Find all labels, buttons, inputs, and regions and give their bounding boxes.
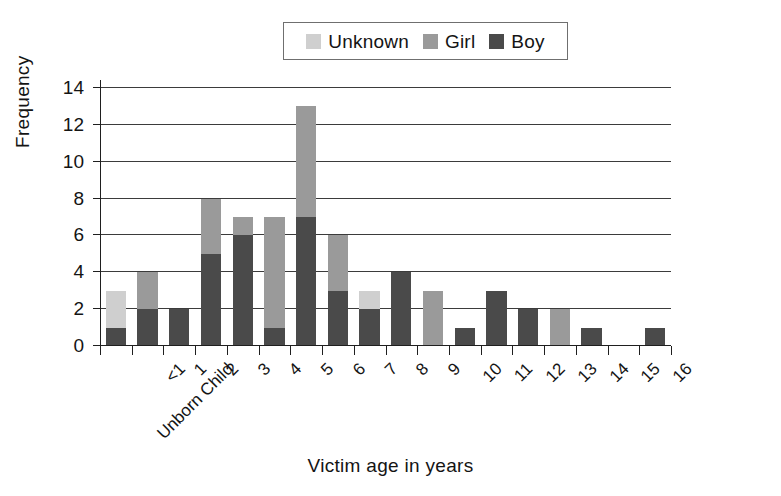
stacked-bar-chart: UnknownGirlBoy Frequency Victim age in y…	[0, 0, 781, 496]
legend-label: Boy	[511, 32, 544, 51]
y-axis-tick-label: 0	[44, 336, 84, 355]
y-axis-tick	[93, 161, 100, 162]
bar-segment-girl	[296, 106, 316, 217]
x-axis-tick-label: 15	[638, 360, 663, 385]
x-axis-tick	[290, 346, 291, 355]
x-axis-tick-label: <1	[162, 360, 188, 386]
y-axis-tick-label: 12	[44, 115, 84, 134]
x-axis-tick	[100, 346, 101, 355]
x-axis-tick-label: 13	[575, 360, 600, 385]
y-axis-tick-label: 10	[44, 152, 84, 171]
y-axis-tick-label: 6	[44, 225, 84, 244]
legend-item-girl[interactable]: Girl	[423, 32, 475, 51]
x-axis-tick	[544, 346, 545, 355]
bar-segment-boy	[201, 254, 221, 346]
bar-segment-unknown	[359, 291, 379, 309]
bar-segment-girl	[137, 272, 157, 309]
x-axis-tick	[259, 346, 260, 355]
x-axis-tick	[449, 346, 450, 355]
x-axis-tick-label: 8	[413, 360, 432, 379]
bar-segment-boy	[518, 309, 538, 346]
x-axis-tick-label: 6	[350, 360, 369, 379]
x-axis-tick	[576, 346, 577, 355]
bar-segment-boy	[233, 235, 253, 346]
x-axis-tick-label: 7	[381, 360, 400, 379]
bar-stack	[201, 199, 221, 346]
bar-segment-boy	[486, 291, 506, 346]
x-axis-tick-label: 16	[670, 360, 695, 385]
x-axis-tick-label: 5	[318, 360, 337, 379]
x-axis-tick	[386, 346, 387, 355]
bar-group[interactable]	[163, 88, 195, 346]
bar-group[interactable]	[227, 88, 259, 346]
bar-segment-boy	[645, 328, 665, 346]
x-axis-tick-label: 3	[255, 360, 274, 379]
bar-segment-girl	[264, 217, 284, 328]
x-axis-tick	[354, 346, 355, 355]
legend-label: Girl	[445, 32, 475, 51]
bar-stack	[296, 106, 316, 346]
bar-stack	[423, 291, 443, 346]
bar-stack	[518, 309, 538, 346]
legend-item-unknown[interactable]: Unknown	[306, 32, 409, 51]
bar-group[interactable]	[322, 88, 354, 346]
legend-item-boy[interactable]: Boy	[489, 32, 544, 51]
bar-segment-girl	[328, 235, 348, 290]
bar-group[interactable]	[354, 88, 386, 346]
y-axis-tick	[93, 124, 100, 125]
bar-stack	[328, 235, 348, 346]
bar-stack	[550, 309, 570, 346]
y-axis-tick	[93, 87, 100, 88]
x-axis-tick	[512, 346, 513, 355]
bar-group[interactable]	[449, 88, 481, 346]
x-axis-tick-label: 12	[543, 360, 568, 385]
bar-group[interactable]	[385, 88, 417, 346]
bar-group[interactable]	[132, 88, 164, 346]
bar-segment-unknown	[106, 291, 126, 328]
y-axis-title: Frequency	[12, 56, 34, 148]
bar-group[interactable]	[290, 88, 322, 346]
y-axis-tick-label: 4	[44, 262, 84, 281]
bar-group[interactable]	[417, 88, 449, 346]
y-axis-tick	[93, 198, 100, 199]
x-axis-tick	[417, 346, 418, 355]
x-axis-tick	[227, 346, 228, 355]
x-axis-tick-label: 10	[479, 360, 504, 385]
legend-label: Unknown	[328, 32, 409, 51]
legend-swatch-boy	[489, 34, 504, 49]
bar-stack	[169, 309, 189, 346]
legend-swatch-unknown	[306, 34, 321, 49]
bar-group[interactable]	[100, 88, 132, 346]
bar-group[interactable]	[195, 88, 227, 346]
bar-stack	[486, 291, 506, 346]
x-axis-tick	[481, 346, 482, 355]
bar-group[interactable]	[544, 88, 576, 346]
bar-group[interactable]	[512, 88, 544, 346]
x-axis-tick-label: 4	[286, 360, 305, 379]
bar-stack	[581, 328, 601, 346]
bar-segment-boy	[359, 309, 379, 346]
bar-segment-boy	[581, 328, 601, 346]
x-axis-title: Victim age in years	[0, 455, 781, 477]
bar-group[interactable]	[576, 88, 608, 346]
bar-segment-boy	[137, 309, 157, 346]
y-axis-tick	[93, 308, 100, 309]
bar-stack	[359, 291, 379, 346]
x-axis-tick	[671, 346, 672, 355]
y-axis-line	[100, 80, 101, 352]
bar-segment-boy	[106, 328, 126, 346]
bar-group[interactable]	[608, 88, 640, 346]
bar-stack	[233, 217, 253, 346]
bar-segment-boy	[264, 328, 284, 346]
bar-segment-boy	[455, 328, 475, 346]
bar-segment-girl	[550, 309, 570, 346]
bar-group[interactable]	[259, 88, 291, 346]
bar-segment-girl	[423, 291, 443, 346]
x-axis-tick	[322, 346, 323, 355]
y-axis-tick	[93, 345, 100, 346]
legend-swatch-girl	[423, 34, 438, 49]
bar-group[interactable]	[481, 88, 513, 346]
y-axis-tick-label: 14	[44, 78, 84, 97]
bar-group[interactable]	[639, 88, 671, 346]
x-axis-tick	[639, 346, 640, 355]
